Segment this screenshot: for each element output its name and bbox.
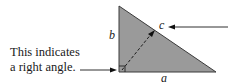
note-line-1: This indicates xyxy=(10,45,80,60)
side-a-label: a xyxy=(161,71,167,84)
side-c-label: c xyxy=(159,18,164,33)
arrowhead-right-angle-icon xyxy=(110,68,117,73)
right-triangle xyxy=(119,6,216,72)
note-line-2: a right angle. xyxy=(10,60,80,75)
side-b-label: b xyxy=(109,28,115,43)
right-angle-note: This indicates a right angle. xyxy=(10,45,80,75)
arrowhead-c-icon xyxy=(168,25,175,30)
